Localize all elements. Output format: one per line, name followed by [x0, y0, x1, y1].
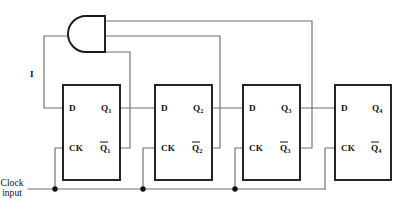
junction-dot-clock-ff3	[232, 186, 237, 191]
junction-dot-clock-ff2	[140, 186, 145, 191]
ff2-ck-label: CK	[161, 143, 176, 153]
logic-diagram: D CK Q1 Q1 D CK Q2 Q2 D CK Q3 Q3 D CK Q4…	[0, 0, 405, 207]
ff4-ck-label: CK	[341, 143, 356, 153]
ff1-d-label: D	[69, 103, 76, 113]
ff1-ck-label: CK	[69, 143, 84, 153]
feedback-signal-label: I	[30, 69, 34, 79]
clock-input-label-line2: input	[2, 187, 22, 198]
and-gate	[68, 16, 105, 52]
ff4-d-label: D	[341, 103, 348, 113]
flipflop-box-3	[243, 85, 300, 180]
wire-clock-to-ff2-ck	[143, 148, 155, 189]
flipflop-box-4	[335, 85, 391, 180]
wire-clock-to-ff3-ck	[235, 148, 243, 189]
ff3-ck-label: CK	[249, 143, 264, 153]
schematic-canvas: D CK Q1 Q1 D CK Q2 Q2 D CK Q3 Q3 D CK Q4…	[0, 0, 405, 207]
ff3-d-label: D	[249, 103, 256, 113]
wire-clock-to-ff4-ck	[325, 148, 335, 189]
flipflop-box-2	[155, 85, 212, 180]
junction-dot-clock-ff1	[52, 186, 57, 191]
flipflop-box-1	[63, 85, 120, 180]
ff2-d-label: D	[161, 103, 168, 113]
wire-clock-to-ff1-ck	[55, 148, 63, 189]
